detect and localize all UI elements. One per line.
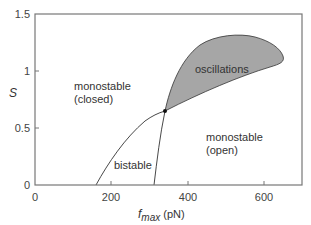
y-tick-label: 0 xyxy=(24,179,30,191)
y-tick-label: 0.5 xyxy=(15,122,30,134)
y-tick-label: 1.5 xyxy=(15,8,30,20)
bistable-left-boundary xyxy=(96,111,165,185)
x-axis-label-subscript: max xyxy=(141,212,161,223)
bistable-right-boundary xyxy=(154,111,165,185)
x-tick-label: 400 xyxy=(179,191,197,203)
region-label-bistable: bistable xyxy=(114,159,152,171)
region-label-monostable-closed-sub: (closed) xyxy=(74,93,113,105)
x-tick-label: 200 xyxy=(102,191,120,203)
critical-point-marker xyxy=(163,109,167,113)
region-label-monostable-closed: monostable xyxy=(74,80,131,92)
x-axis-label-unit: (pN) xyxy=(160,208,184,220)
y-axis-label: S xyxy=(9,86,17,100)
region-label-oscillations: oscillations xyxy=(195,63,249,75)
x-axis-label: fmax (pN) xyxy=(138,207,185,223)
y-tick-label: 1 xyxy=(24,65,30,77)
x-tick-label: 0 xyxy=(32,191,38,203)
x-ticks xyxy=(111,181,264,185)
phase-diagram-chart: 0 200 400 600 0 0.5 1 1.5 S fmax (pN) mo… xyxy=(0,0,311,225)
x-tick-label: 600 xyxy=(255,191,273,203)
region-label-monostable-open-sub: (open) xyxy=(206,144,238,156)
region-label-monostable-open: monostable xyxy=(206,131,263,143)
